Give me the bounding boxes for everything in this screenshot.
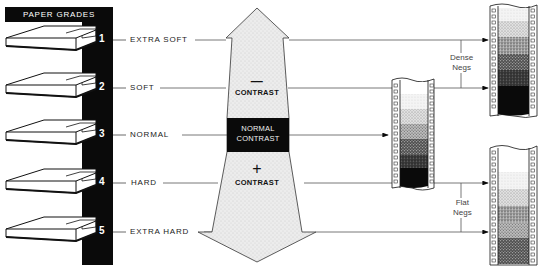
label-to-arrow-lines — [160, 40, 227, 232]
grade-label-extra-hard: EXTRA HARD — [130, 227, 189, 236]
minus-sign: — — [217, 74, 297, 88]
grade-label-soft: SOFT — [130, 83, 155, 92]
flat-negs-label: Flat Negs — [452, 198, 473, 218]
dense-negs-label: Dense Negs — [449, 53, 474, 73]
less-contrast-label: CONTRAST — [217, 88, 297, 97]
paper-boxes — [6, 26, 96, 241]
grade-leader-lines — [113, 40, 126, 232]
more-contrast-label: CONTRAST — [217, 178, 297, 187]
grade-number-2: 2 — [99, 81, 105, 92]
grade-number-1: 1 — [99, 33, 105, 44]
grade-label-hard: HARD — [131, 178, 157, 187]
grade-number-4: 4 — [99, 176, 105, 187]
film-strip-dense — [490, 4, 537, 118]
normal-contrast-label: NORMAL CONTRAST — [227, 124, 289, 144]
grade-label-normal: NORMAL — [130, 130, 169, 139]
grade-number-5: 5 — [99, 225, 105, 236]
film-strip-normal — [392, 78, 434, 190]
film-strip-flat — [490, 146, 537, 266]
grade-label-extra-soft: EXTRA SOFT — [130, 35, 188, 44]
plus-sign: + — [217, 160, 297, 178]
grade-number-3: 3 — [99, 128, 105, 139]
